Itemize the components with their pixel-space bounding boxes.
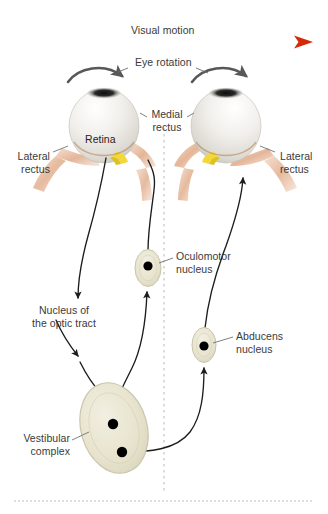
eye-rotation-leaders: [118, 68, 208, 73]
vestibular-complex-label: Vestibular complex: [0, 432, 70, 457]
bottom-divider: [14, 500, 314, 502]
nucleus-optic-tract-label: Nucleus of the optic tract: [16, 304, 112, 329]
medial-rectus-label: Medial rectus: [148, 108, 186, 133]
leader-oculomotor-nucleus: [159, 258, 173, 263]
lateral-rectus-right-label: Lateral rectus: [280, 150, 326, 175]
leader-medial-rectus-left: [140, 113, 147, 117]
lateral-rectus-left-label: Lateral rectus: [4, 150, 50, 175]
oculomotor-nucleus: [135, 250, 161, 287]
visual-motion-arrow: [18, 36, 313, 49]
abducens-nucleus-label: Abducens nucleus: [236, 330, 298, 355]
eye-rotation-label: Eye rotation: [135, 56, 192, 69]
eye-rotation-arrow-left: [68, 68, 122, 82]
eye-rotation-arrows: [68, 68, 246, 82]
right-eye: [174, 88, 297, 202]
oculomotor-nucleus-label: Oculomotor nucleus: [176, 250, 244, 275]
path-retina-to-optic-tract: [78, 158, 106, 298]
figure-canvas: Visual motion Eye rotation Retina Medial…: [0, 0, 328, 514]
vestibular-complex: [70, 375, 159, 482]
path-oculomotor-to-medial-rectus: [148, 160, 155, 252]
retina-label: Retina: [85, 133, 116, 146]
abducens-nucleus: [192, 328, 216, 363]
visual-motion-label: Visual motion: [131, 24, 195, 37]
